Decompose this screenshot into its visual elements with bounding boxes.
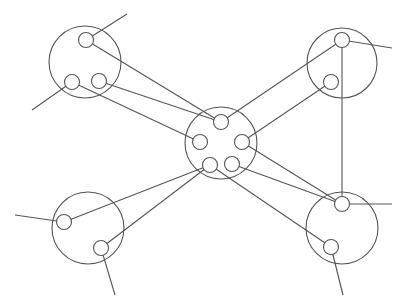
link-line	[72, 82, 200, 142]
port-tr-2[interactable]	[324, 75, 339, 90]
port-bl-2[interactable]	[94, 241, 109, 256]
port-bl-1[interactable]	[57, 215, 72, 230]
port-br-2[interactable]	[324, 240, 339, 255]
cluster-nodes	[49, 26, 378, 264]
port-c-5[interactable]	[225, 157, 240, 172]
cluster-bottom-left[interactable]	[52, 192, 124, 264]
port-c-3[interactable]	[235, 135, 250, 150]
port-tl-3[interactable]	[92, 74, 107, 89]
port-c-1[interactable]	[214, 115, 229, 130]
port-tl-1[interactable]	[79, 33, 94, 48]
cluster-center[interactable]	[185, 107, 257, 179]
port-tl-2[interactable]	[65, 75, 80, 90]
port-c-4[interactable]	[203, 158, 218, 173]
cluster-top-left[interactable]	[49, 26, 121, 98]
network-diagram	[0, 0, 405, 307]
cluster-bottom-right[interactable]	[306, 192, 378, 264]
port-br-1[interactable]	[335, 197, 350, 212]
port-tr-1[interactable]	[335, 33, 350, 48]
port-c-2[interactable]	[193, 135, 208, 150]
link-line	[99, 81, 221, 122]
link-line	[64, 165, 210, 222]
